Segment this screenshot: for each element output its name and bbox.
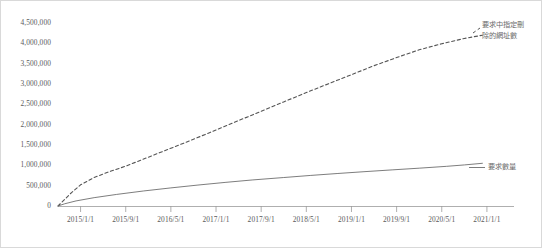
series-line-1 [58, 163, 482, 206]
series-0-leader-line [473, 28, 480, 33]
y-axis-tick-label: 1,500,000 [3, 140, 51, 149]
chart-container: 0500,0001,000,0001,500,0002,000,0002,500… [0, 0, 542, 248]
series-label-line: 要求中指定刪 [482, 20, 524, 31]
x-axis-tick-label: 2021/1/1 [457, 215, 517, 224]
y-axis-tick-label: 500,000 [3, 181, 51, 190]
chart-plot-area [1, 1, 542, 248]
y-axis-tick-label: 0 [3, 201, 51, 210]
y-axis-tick-label: 2,500,000 [3, 99, 51, 108]
series-label-line: 除的網址數 [482, 31, 524, 42]
series-line-0 [58, 35, 482, 206]
series-label-urls-requested-for-removal: 要求中指定刪除的網址數 [482, 20, 524, 41]
chart-series-group [58, 28, 485, 206]
y-axis-tick-label: 2,000,000 [3, 120, 51, 129]
y-axis-tick-label: 3,500,000 [3, 59, 51, 68]
y-axis-tick-label: 4,500,000 [3, 18, 51, 27]
series-label-request-count: 要求數量 [488, 162, 516, 173]
y-axis-tick-label: 3,000,000 [3, 79, 51, 88]
y-axis-tick-label: 1,000,000 [3, 160, 51, 169]
series-label-line: 要求數量 [488, 162, 516, 173]
y-axis-tick-label: 4,000,000 [3, 38, 51, 47]
